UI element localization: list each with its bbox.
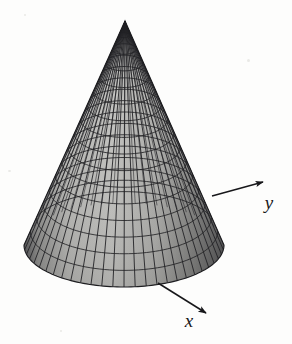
x-axis-label: x xyxy=(184,310,194,331)
cone-figure: y x xyxy=(0,0,292,344)
x-axis-arrow xyxy=(158,283,206,313)
y-axis-label: y xyxy=(263,192,274,213)
y-axis-arrow xyxy=(212,182,263,196)
cone-surface-plot: y x xyxy=(0,0,292,344)
